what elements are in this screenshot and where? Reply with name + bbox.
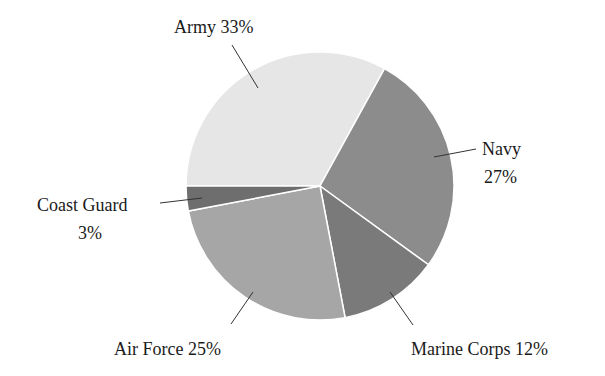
leader-line-marine (390, 292, 413, 325)
leader-line-air-force (231, 292, 253, 324)
label-navy-value: 27% (484, 167, 517, 187)
pie-chart: Army 33% Navy 27% Marine Corps 12% Air F… (0, 0, 605, 376)
label-coast-guard-value: 3% (78, 223, 102, 243)
label-army: Army 33% (174, 17, 254, 37)
label-marine-corps: Marine Corps 12% (411, 339, 548, 359)
pie-slices (186, 52, 454, 320)
label-navy-name: Navy (482, 139, 521, 159)
label-coast-guard-name: Coast Guard (37, 195, 127, 215)
label-air-force: Air Force 25% (114, 339, 221, 359)
